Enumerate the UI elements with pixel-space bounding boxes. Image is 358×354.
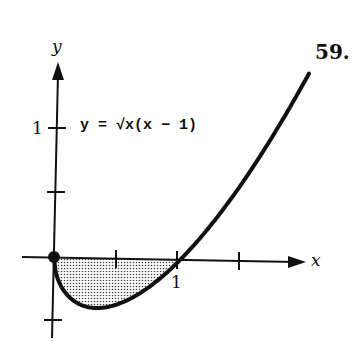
- x-tick-label: 1: [171, 272, 182, 292]
- problem-number: 59.: [315, 40, 350, 64]
- origin-point: [48, 251, 60, 263]
- y-axis-label: y: [52, 36, 62, 56]
- x-axis-label: x: [311, 250, 321, 270]
- y-axis: [52, 74, 58, 338]
- y-axis-arrow-icon: [52, 62, 64, 80]
- y-tick-label: 1: [32, 118, 43, 138]
- equation-label: y = √x(x − 1): [80, 117, 197, 134]
- figure: y x 1 1 y = √x(x − 1) 59.: [0, 0, 358, 354]
- x-axis-arrow-icon: [288, 256, 306, 268]
